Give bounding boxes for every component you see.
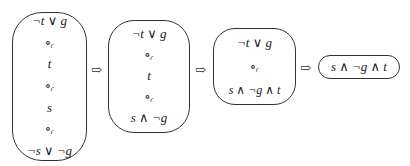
formula: ¬t ∨ g xyxy=(32,14,67,28)
sequent-box-4: s ∧ ¬g ∧ t xyxy=(318,55,400,79)
operator: ∘ᵣ xyxy=(144,90,154,104)
arrow-icon: ⇨ xyxy=(300,60,311,76)
formula: ¬s ∨ ¬g xyxy=(27,144,72,158)
sequent-box-1: ¬t ∨ g ∘ᵣ t ∘ᵣ s ∘ᵣ ¬s ∨ ¬g xyxy=(12,12,87,161)
formula: s ∧ ¬g xyxy=(131,111,167,125)
operator: ∘ᵣ xyxy=(45,79,55,93)
operator: ∘ᵣ xyxy=(45,36,55,50)
formula: s xyxy=(47,101,52,115)
arrow-icon: ⇨ xyxy=(91,62,102,78)
operator: ∘ᵣ xyxy=(144,48,154,62)
sequent-box-2: ¬t ∨ g ∘ᵣ t ∘ᵣ s ∧ ¬g xyxy=(108,20,190,133)
arrow-icon: ⇨ xyxy=(195,62,206,78)
operator: ∘ᵣ xyxy=(250,60,260,74)
formula: t xyxy=(48,57,52,71)
formula: t xyxy=(147,69,151,83)
formula: ¬t ∨ g xyxy=(132,27,167,41)
sequent-box-3: ¬t ∨ g ∘ᵣ s ∧ ¬g ∧ t xyxy=(213,28,296,105)
operator: ∘ᵣ xyxy=(45,122,55,136)
formula: s ∧ ¬g ∧ t xyxy=(229,83,281,97)
formula: s ∧ ¬g ∧ t xyxy=(331,60,387,74)
formula: ¬t ∨ g xyxy=(237,36,272,50)
